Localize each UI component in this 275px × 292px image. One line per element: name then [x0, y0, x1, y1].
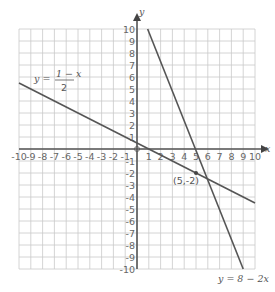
- y-tick-label: -9: [126, 252, 135, 263]
- x-tick-label: 9: [240, 151, 246, 162]
- x-tick-label: -5: [73, 151, 82, 162]
- y-tick-label: 5: [129, 84, 135, 95]
- y-tick-label: -1: [126, 156, 135, 167]
- y-tick-label: 6: [129, 72, 135, 83]
- y-axis-label: y: [138, 6, 145, 17]
- line1-label-prefix: y =: [33, 73, 50, 84]
- y-tick-label: -7: [126, 228, 135, 239]
- y-tick-label: 8: [129, 48, 135, 59]
- x-tick-label: 8: [228, 151, 234, 162]
- x-tick-label: 1: [146, 151, 152, 162]
- y-tick-label: -8: [126, 240, 135, 251]
- x-tick-label: 4: [181, 151, 187, 162]
- x-tick-label: -10: [11, 151, 27, 162]
- line2-label: y = 8 − 2x: [217, 273, 269, 284]
- y-tick-label: 4: [129, 96, 135, 107]
- y-tick-label: -3: [126, 180, 135, 191]
- x-tick-label: -8: [38, 151, 47, 162]
- line1-label-denominator: 2: [61, 82, 67, 93]
- x-tick-label: -3: [97, 151, 106, 162]
- y-tick-label: -6: [126, 216, 135, 227]
- x-tick-label: 7: [217, 151, 223, 162]
- x-axis-label: x: [265, 143, 271, 154]
- y-tick-label: -4: [126, 192, 135, 203]
- x-tick-label: -2: [109, 151, 118, 162]
- y-tick-label: 3: [129, 108, 135, 119]
- x-tick-label: -6: [61, 151, 70, 162]
- y-tick-label: -2: [126, 168, 135, 179]
- intersection-label: (5,-2): [173, 175, 199, 186]
- y-tick-label: -10: [119, 264, 135, 275]
- y-tick-label: 2: [129, 120, 135, 131]
- coordinate-plane: -10-9-8-7-6-5-4-3-2-11234567891010987654…: [0, 0, 275, 292]
- x-tick-label: 6: [205, 151, 211, 162]
- x-tick-label: -7: [50, 151, 59, 162]
- y-tick-label: 9: [129, 36, 135, 47]
- y-tick-label: -5: [126, 204, 135, 215]
- x-tick-label: -9: [26, 151, 35, 162]
- y-tick-label: 7: [129, 60, 135, 71]
- y-tick-label: 10: [123, 24, 135, 35]
- x-tick-label: -4: [85, 151, 94, 162]
- line1-label-numerator: 1 − x: [56, 68, 82, 79]
- x-tick-label: 10: [249, 151, 261, 162]
